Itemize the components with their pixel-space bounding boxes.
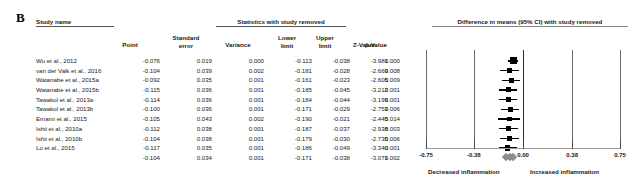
cell-variance: 0.001 (212, 85, 264, 95)
x-axis-tick-label: 0.00 (508, 152, 538, 158)
column-header-point: Point (100, 41, 160, 49)
cell-point: -0.076 (100, 56, 160, 66)
cell-se: 0.036 (160, 95, 212, 105)
point-estimate-square (508, 107, 513, 112)
study-name-cell: Emami et al., 2015 (36, 114, 87, 124)
cell-p: 0.003 (352, 124, 400, 134)
x-axis-tick (523, 141, 524, 149)
table-body: Wu et al., 2012-0.0760.0190.000-0.113-0.… (0, 56, 410, 163)
point-estimate-square (507, 136, 512, 141)
cell-se: 0.038 (160, 134, 212, 144)
table-row: Watanabe et al., 2015b-0.1150.0360.001-0… (0, 85, 410, 95)
x-axis-tick-label: 0.75 (605, 152, 635, 158)
header-statistics-with-study-removed: Statistics with study removed (216, 18, 346, 27)
cell-se: 0.038 (160, 124, 212, 134)
marker-row (410, 56, 644, 66)
marker-row (410, 66, 644, 76)
x-axis-tick (474, 141, 475, 149)
cell-point: -0.104 (100, 153, 160, 163)
cell-variance: 0.001 (212, 124, 264, 134)
x-axis-tick-label: -0.75 (411, 152, 441, 158)
point-estimate-square (507, 117, 511, 121)
x-axis-tick (572, 141, 573, 149)
cell-se: 0.036 (160, 104, 212, 114)
table-row: Emami et al., 2015-0.1050.0430.002-0.190… (0, 114, 410, 124)
table-row: Ishii et al., 2010a-0.1120.0380.001-0.18… (0, 124, 410, 134)
table-row: Lo et al., 2015-0.1170.0350.001-0.186-0.… (0, 143, 410, 153)
study-name-cell: Tawakol et al., 2013b (36, 104, 93, 114)
x-axis-tick-label: 0.38 (557, 152, 587, 158)
point-estimate-square (507, 68, 512, 73)
summary-row: -0.1040.0340.001-0.171-0.038-3.0710.002 (0, 153, 410, 163)
study-name-cell: Ishii et al., 2010b (36, 134, 82, 144)
plot-markers (410, 56, 644, 163)
statistics-table: Study name Statistics with study removed… (0, 0, 410, 191)
study-name-cell: Watanabe et al., 2015a (36, 75, 99, 85)
table-row: Wu et al., 2012-0.0760.0190.000-0.113-0.… (0, 56, 410, 66)
table-row: Watanabe et al., 2015a-0.0920.0350.001-0… (0, 75, 410, 85)
cell-point: -0.092 (100, 75, 160, 85)
cell-p: 0.014 (352, 114, 400, 124)
study-name-cell: van der Valk et al., 2016 (36, 66, 101, 76)
cell-se: 0.043 (160, 114, 212, 124)
cell-variance: 0.002 (212, 66, 264, 76)
marker-row (410, 124, 644, 134)
marker-row (410, 95, 644, 105)
cell-se: 0.019 (160, 56, 212, 66)
marker-row (410, 104, 644, 114)
cell-point: -0.112 (100, 124, 160, 134)
cell-se: 0.035 (160, 75, 212, 85)
axis-note-increased: Increased inflammation (530, 168, 599, 175)
forest-plot-figure: B Study name Statistics with study remov… (0, 0, 644, 191)
cell-variance: 0.001 (212, 153, 264, 163)
cell-variance: 0.000 (212, 56, 264, 66)
cell-se: 0.039 (160, 66, 212, 76)
cell-p: 0.006 (352, 134, 400, 144)
column-header-standard-error-line2: error (160, 42, 212, 50)
study-name-cell: Lo et al., 2015 (36, 143, 75, 153)
cell-p: 0.001 (352, 85, 400, 95)
cell-point: -0.105 (100, 114, 160, 124)
study-name-cell: Wu et al., 2012 (36, 56, 77, 66)
marker-row (410, 85, 644, 95)
marker-row (410, 75, 644, 85)
study-name-cell: Tawakol et al., 2013a (36, 95, 93, 105)
point-estimate-square (506, 97, 511, 102)
table-row: van der Valk et al., 2016-0.1040.0390.00… (0, 66, 410, 76)
cell-se: 0.035 (160, 143, 212, 153)
cell-variance: 0.001 (212, 134, 264, 144)
column-header-standard-error: Standard error (160, 34, 212, 49)
header-study-name: Study name (36, 18, 114, 27)
table-row: Ishii et al., 2010b-0.1040.0380.001-0.17… (0, 134, 410, 144)
axis-note-decreased: Decreased inflammation (428, 168, 500, 175)
x-axis-tick-label: -0.38 (459, 152, 489, 158)
point-estimate-square (506, 87, 511, 92)
cell-point: -0.104 (100, 134, 160, 144)
table-row: Tawakol et al., 2013a-0.1140.0360.001-0.… (0, 95, 410, 105)
cell-p: 0.009 (352, 75, 400, 85)
column-header-p-value: p-Value (352, 41, 400, 49)
cell-se: 0.036 (160, 85, 212, 95)
study-name-cell: Ishii et al., 2010a (36, 124, 82, 134)
cell-p: 0.008 (352, 66, 400, 76)
cell-point: -0.104 (100, 66, 160, 76)
cell-variance: 0.001 (212, 75, 264, 85)
cell-p: 0.001 (352, 95, 400, 105)
cell-variance: 0.002 (212, 114, 264, 124)
cell-se: 0.034 (160, 153, 212, 163)
table-row: Tawakol et al., 2013b-0.1000.0360.001-0.… (0, 104, 410, 114)
forest-plot: Difference in means (95% CI) with study … (410, 0, 644, 191)
column-header-variance: Variance (212, 41, 264, 49)
plot-title: Difference in means (95% CI) with study … (432, 18, 628, 27)
cell-p: 0.000 (352, 56, 400, 66)
cell-p: 0.006 (352, 104, 400, 114)
column-header-standard-error-line1: Standard (160, 34, 212, 42)
marker-row (410, 134, 644, 144)
cell-variance: 0.001 (212, 104, 264, 114)
cell-variance: 0.001 (212, 143, 264, 153)
point-estimate-square (509, 78, 514, 83)
marker-row (410, 114, 644, 124)
cell-p: 0.002 (352, 153, 400, 163)
point-estimate-square (506, 126, 511, 131)
cell-point: -0.114 (100, 95, 160, 105)
